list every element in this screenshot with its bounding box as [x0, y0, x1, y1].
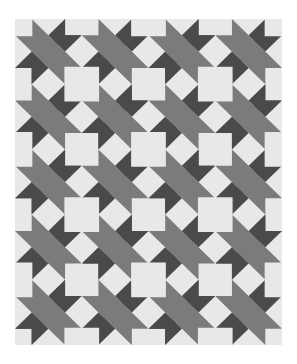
light-square [265, 262, 282, 297]
light-square [64, 197, 99, 232]
light-square [15, 262, 32, 297]
quilt-pattern [15, 19, 282, 345]
light-square [265, 132, 282, 167]
light-square [198, 197, 233, 232]
light-square [198, 328, 233, 345]
quilt-svg [15, 19, 282, 345]
light-square [131, 19, 166, 36]
light-square [64, 328, 99, 345]
light-square [265, 19, 282, 36]
light-square [131, 262, 166, 297]
light-square [15, 132, 32, 167]
light-square [131, 132, 166, 167]
light-square [198, 67, 233, 102]
light-square [15, 19, 32, 36]
light-square [64, 67, 99, 102]
